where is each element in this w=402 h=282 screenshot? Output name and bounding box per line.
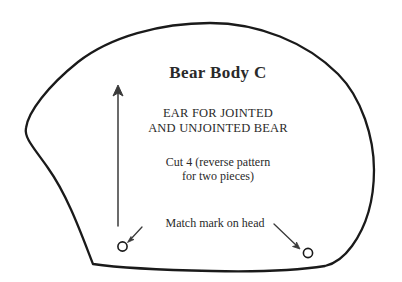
cut-instruction-text: Cut 4 (reverse pattern for two pieces)	[0, 155, 402, 183]
usage-line-1: EAR FOR JOINTED	[163, 106, 273, 120]
page-title: Bear Body C	[0, 63, 402, 83]
pattern-piece-outline	[26, 23, 374, 271]
cut-line-1: Cut 4 (reverse pattern	[166, 155, 270, 169]
pattern-drawing	[0, 0, 402, 282]
match-mark-label: Match mark on head	[0, 216, 402, 230]
cut-line-2: for two pieces)	[34, 169, 402, 183]
usage-line-2: AND UNJOINTED BEAR	[34, 121, 402, 136]
usage-text: EAR FOR JOINTED AND UNJOINTED BEAR	[0, 106, 402, 136]
pattern-sheet: Bear Body C EAR FOR JOINTED AND UNJOINTE…	[0, 0, 402, 282]
match-mark-circle-right	[303, 248, 312, 257]
match-mark-circle-left	[118, 242, 127, 251]
